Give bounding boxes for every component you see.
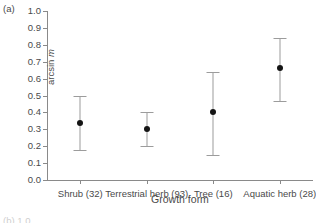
figure-panel-a: (a) 1.00.90.80.70.60.50.40.30.20.10.0 Sh… xyxy=(0,0,316,223)
y-axis-title: arcsin m xyxy=(45,5,56,85)
y-tick-label: 0.8 xyxy=(28,39,41,50)
y-tick-mark xyxy=(43,129,47,130)
errorbar-cap-upper xyxy=(207,72,220,73)
y-tick-mark xyxy=(43,112,47,113)
x-axis-title: Growth form xyxy=(47,193,313,205)
y-tick-label: 0.4 xyxy=(28,106,41,117)
y-axis-title-variable: m xyxy=(45,49,56,57)
x-tick-mark xyxy=(147,180,148,184)
y-tick-label: 1.0 xyxy=(28,5,41,16)
y-tick-label: 0.7 xyxy=(28,56,41,67)
y-tick-mark xyxy=(43,146,47,147)
panel-letter: (a) xyxy=(3,3,15,14)
x-tick-mark xyxy=(80,180,81,184)
data-point-shrub xyxy=(77,120,83,126)
x-axis-line xyxy=(47,180,313,181)
next-panel-letter-clipped: (b) 1.0 xyxy=(3,215,30,223)
y-tick-mark xyxy=(43,180,47,181)
y-axis-title-text: arcsin xyxy=(45,60,56,85)
data-point-tree xyxy=(210,109,216,115)
y-tick-mark xyxy=(43,163,47,164)
errorbar-cap-lower xyxy=(273,101,286,102)
y-tick-label: 0.1 xyxy=(28,157,41,168)
y-tick-label: 0.0 xyxy=(28,174,41,185)
x-tick-mark xyxy=(213,180,214,184)
plot-area: 1.00.90.80.70.60.50.40.30.20.10.0 Shrub … xyxy=(47,11,313,180)
y-tick-label: 0.5 xyxy=(28,90,41,101)
data-point-aquatic-herb xyxy=(277,65,283,71)
y-tick-label: 0.6 xyxy=(28,73,41,84)
y-tick-label: 0.9 xyxy=(28,22,41,33)
errorbar-cap-lower xyxy=(140,146,153,147)
errorbar-cap-lower xyxy=(207,155,220,156)
errorbar-cap-lower xyxy=(74,150,87,151)
y-tick-label: 0.3 xyxy=(28,123,41,134)
x-tick-mark xyxy=(280,180,281,184)
errorbar-cap-upper xyxy=(74,96,87,97)
errorbar-cap-upper xyxy=(140,112,153,113)
y-tick-mark xyxy=(43,96,47,97)
data-point-terrestrial-herb xyxy=(144,126,150,132)
y-tick-label: 0.2 xyxy=(28,140,41,151)
errorbar-cap-upper xyxy=(273,38,286,39)
